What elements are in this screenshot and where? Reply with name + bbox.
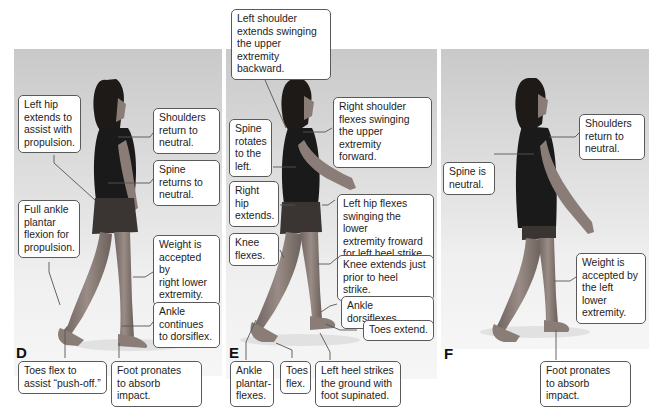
callout-e-knee-extends: Knee extends just prior to heel strike. xyxy=(337,255,434,301)
callout-f-foot-pronates: Foot pronates to absorb impact. xyxy=(540,361,631,407)
callout-e-toes-extend: Toes extend. xyxy=(363,320,434,341)
callout-e-right-hip-extends: Right hip extends. xyxy=(229,181,279,227)
callout-d-spine-neutral: Spine returns to neutral. xyxy=(153,160,220,206)
callout-d-shoulders-neutral: Shoulders return to neutral. xyxy=(153,108,220,154)
callout-d-weight-accepted-right: Weight is accepted by right lower extrem… xyxy=(153,235,220,306)
callout-e-toes-flex: Toes flex. xyxy=(280,361,311,394)
callout-f-spine-neutral: Spine is neutral. xyxy=(443,162,495,195)
callout-e-ankle-plantarflexes: Ankle plantar- flexes. xyxy=(230,361,274,407)
callout-d-ankle-dorsiflex: Ankle continues to dorsiflex. xyxy=(153,302,220,348)
callout-e-left-shoulder-extends: Left shoulder extends swinging the upper… xyxy=(231,9,331,80)
callout-d-toes-flex: Toes flex to assist “push-off.” xyxy=(18,361,107,394)
callout-f-shoulders-neutral: Shoulders return to neutral. xyxy=(579,114,645,160)
callout-d-foot-pronates: Foot pronates to absorb impact. xyxy=(111,361,202,407)
callout-d-ankle-plantar-flexion: Full ankle plantar flexion for propulsio… xyxy=(18,200,80,258)
callout-d-left-hip-extends: Left hip extends to assist with propulsi… xyxy=(18,95,81,153)
callout-e-spine-rotates: Spine rotates to the left. xyxy=(229,119,272,177)
callout-e-knee-flexes: Knee flexes. xyxy=(229,233,279,266)
callout-f-weight-accepted-left: Weight is accepted by the left lower ext… xyxy=(576,253,646,324)
callout-e-left-heel-strikes: Left heel strikes the ground with foot s… xyxy=(315,361,401,407)
callout-e-right-shoulder-flexes: Right shoulder flexes swinging the upper… xyxy=(333,97,432,168)
